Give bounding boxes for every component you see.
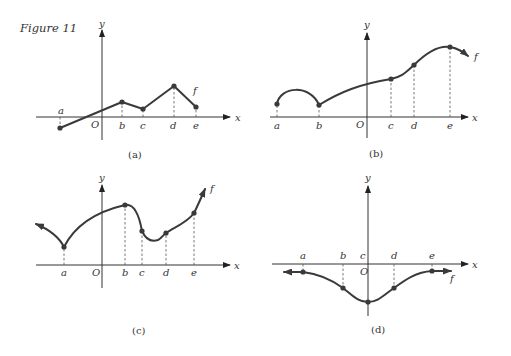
y-axis-label: y bbox=[98, 18, 105, 29]
caption-c: (c) bbox=[132, 325, 146, 336]
origin-label: O bbox=[360, 266, 368, 277]
caption-a: (a) bbox=[128, 149, 142, 160]
point-label-e: e bbox=[193, 120, 199, 131]
function-label: f bbox=[449, 273, 456, 284]
origin-label: O bbox=[92, 267, 100, 278]
x-axis-label: x bbox=[472, 259, 478, 270]
graph-f-hump bbox=[277, 90, 319, 105]
y-axis-label: y bbox=[363, 19, 370, 30]
point-label-c: c bbox=[388, 120, 394, 131]
point-label-a: a bbox=[274, 120, 280, 131]
caption-b: (b) bbox=[369, 148, 383, 159]
point-label-a: a bbox=[58, 105, 64, 116]
x-axis-label: x bbox=[235, 112, 241, 123]
origin-label: O bbox=[356, 119, 364, 130]
point-label-d: d bbox=[411, 120, 417, 131]
point-label-c: c bbox=[140, 120, 146, 131]
point-label-a: a bbox=[300, 250, 306, 261]
point-label-c: c bbox=[360, 250, 366, 261]
point-label-b: b bbox=[119, 120, 125, 131]
point-label-d: d bbox=[163, 267, 169, 278]
point-label-e: e bbox=[447, 120, 453, 131]
point-label-d: d bbox=[170, 120, 176, 131]
point-label-c: c bbox=[139, 267, 145, 278]
panel-b: x y O a b c d e f (b) bbox=[270, 19, 480, 159]
origin-label: O bbox=[91, 119, 99, 130]
point-label-b: b bbox=[316, 120, 322, 131]
graph-f-left bbox=[36, 224, 64, 247]
figure-title: Figure 11 bbox=[19, 21, 77, 35]
y-axis-label: y bbox=[364, 172, 371, 183]
panel-a: x y O a b c d e f (a) bbox=[36, 18, 241, 160]
caption-d: (d) bbox=[371, 324, 385, 335]
point-label-a: a bbox=[61, 267, 67, 278]
graph-f bbox=[319, 47, 468, 105]
figure-11: Figure 11 x y O a b c d e f (a) x y O bbox=[0, 0, 511, 356]
point-label-b: b bbox=[122, 267, 128, 278]
function-label: f bbox=[209, 183, 216, 194]
x-axis-label: x bbox=[472, 112, 478, 123]
point-label-d: d bbox=[391, 250, 397, 261]
point-label-e: e bbox=[191, 267, 197, 278]
panel-c: x y O a b c d e f (c) bbox=[36, 172, 240, 336]
function-label: f bbox=[473, 51, 480, 62]
function-label: f bbox=[192, 85, 199, 96]
x-axis-label: x bbox=[234, 260, 240, 271]
graph-f bbox=[64, 189, 205, 247]
panel-d: x y O a b c d e f (d) bbox=[272, 172, 478, 335]
point-label-b: b bbox=[340, 250, 346, 261]
point-label-e: e bbox=[429, 250, 435, 261]
y-axis-label: y bbox=[98, 172, 105, 183]
